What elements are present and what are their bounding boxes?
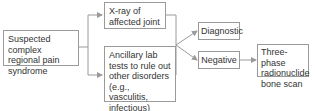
node-label: Ancillary lab tests to rule out other di… bbox=[109, 50, 171, 111]
node-suspected-crps: Suspected complex regional pain syndrome bbox=[3, 30, 79, 66]
node-xray: X-ray of affected joint bbox=[104, 2, 166, 29]
node-bone-scan: Three-phase radionuclide bone scan bbox=[257, 44, 309, 77]
node-label: Diagnostic bbox=[201, 26, 243, 36]
node-negative: Negative bbox=[198, 51, 240, 69]
node-label: Three-phase radionuclide bone scan bbox=[261, 47, 310, 89]
node-label: X-ray of affected joint bbox=[109, 6, 160, 27]
node-ancillary-labs: Ancillary lab tests to rule out other di… bbox=[104, 46, 176, 102]
node-diagnostic: Diagnostic bbox=[198, 22, 240, 40]
node-label: Negative bbox=[201, 55, 237, 65]
